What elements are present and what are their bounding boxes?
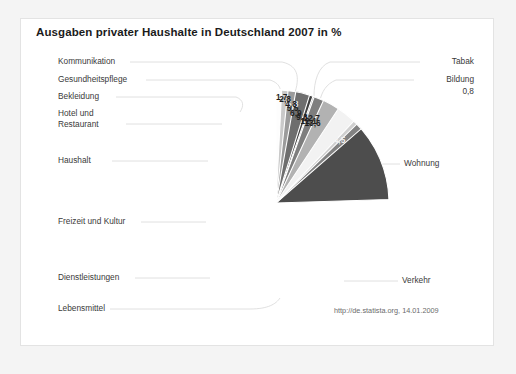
- label-gesundheitspflege: Gesundheitspflege: [58, 74, 127, 85]
- label-lebensmittel: Lebensmittel: [58, 303, 105, 314]
- label-freizeit-kultur: Freizeit und Kultur: [58, 216, 125, 227]
- label-dienstleistungen: Dienstleistungen: [58, 272, 119, 283]
- label-tabak: Tabak: [400, 56, 474, 67]
- label-verkehr: Verkehr: [402, 275, 431, 286]
- label-bildung: Bildung: [400, 74, 474, 85]
- label-haushalt: Haushalt: [58, 155, 91, 166]
- slice-value-label: 1,7: [276, 92, 288, 102]
- label-kommunikation: Kommunikation: [58, 56, 115, 67]
- label-bildung-value: 0,8: [400, 86, 474, 97]
- label-wohnung: Wohnung: [404, 158, 439, 169]
- screenshot-root: Ausgaben privater Haushalte in Deutschla…: [0, 0, 516, 374]
- label-bekleidung: Bekleidung: [58, 91, 99, 102]
- label-hotel-line1: Hotel und: [58, 108, 94, 119]
- slice-value-label: 24,5: [329, 135, 346, 145]
- source-note: http://de.statista.org, 14.01.2009: [334, 306, 439, 315]
- label-hotel-line2: Restaurant: [58, 119, 99, 130]
